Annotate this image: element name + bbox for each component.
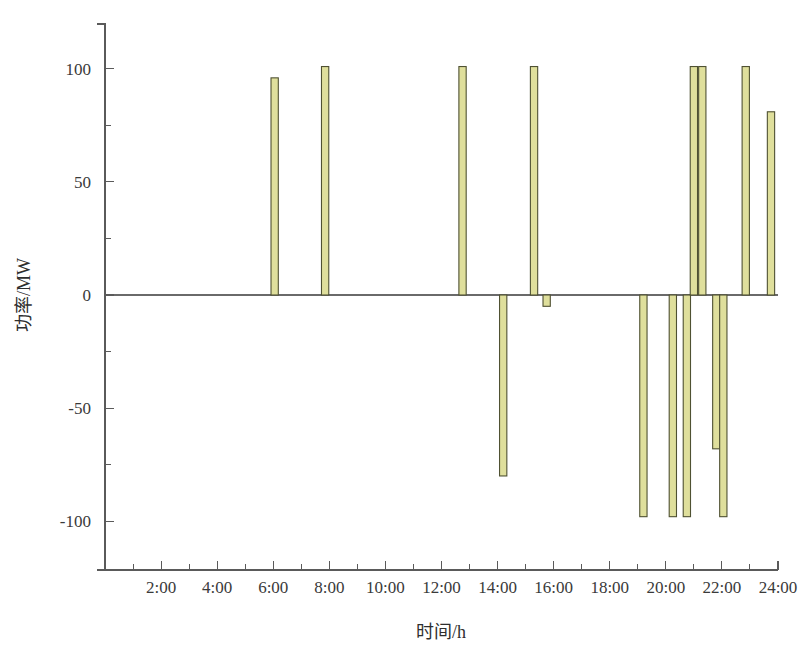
bars-layer [271, 67, 775, 517]
bar [669, 295, 676, 517]
y-axis-spine [97, 24, 105, 570]
bar [767, 112, 774, 295]
bar [530, 67, 537, 295]
x-axis-tick-label: 16:00 [534, 578, 573, 597]
y-axis-tick-label: -50 [68, 399, 91, 418]
bar [271, 78, 278, 295]
bar [720, 295, 727, 517]
bar [459, 67, 466, 295]
x-axis-title: 时间/h [416, 622, 466, 642]
y-axis-tick-label: 0 [83, 286, 92, 305]
x-axis-tick-label: 8:00 [314, 578, 344, 597]
chart-container: 100500-50-1002:004:006:008:0010:0012:001… [0, 0, 811, 658]
y-axis-tick-label: -100 [60, 512, 91, 531]
bar [321, 67, 328, 295]
x-axis-tick-label: 4:00 [202, 578, 232, 597]
bar [500, 295, 507, 476]
y-axis-tick-label: 50 [74, 173, 91, 192]
bar [690, 67, 697, 295]
bar [543, 295, 550, 306]
x-axis-tick-label: 12:00 [422, 578, 461, 597]
bar [713, 295, 720, 449]
x-axis-tick-label: 22:00 [703, 578, 742, 597]
power-bar-chart: 100500-50-1002:004:006:008:0010:0012:001… [0, 0, 811, 658]
x-axis-tick-label: 14:00 [478, 578, 517, 597]
y-axis-title: 功率/MW [14, 258, 34, 332]
x-axis-tick-label: 18:00 [590, 578, 629, 597]
bar [683, 295, 690, 517]
x-axis-tick-label: 24:00 [759, 578, 798, 597]
y-axis-tick-label: 100 [66, 60, 92, 79]
x-axis-tick-label: 20:00 [646, 578, 685, 597]
bar [742, 67, 749, 295]
x-axis-tick-label: 6:00 [258, 578, 288, 597]
bar [640, 295, 647, 517]
x-axis-tick-label: 10:00 [366, 578, 405, 597]
x-axis-tick-label: 2:00 [146, 578, 176, 597]
bar [699, 67, 706, 295]
